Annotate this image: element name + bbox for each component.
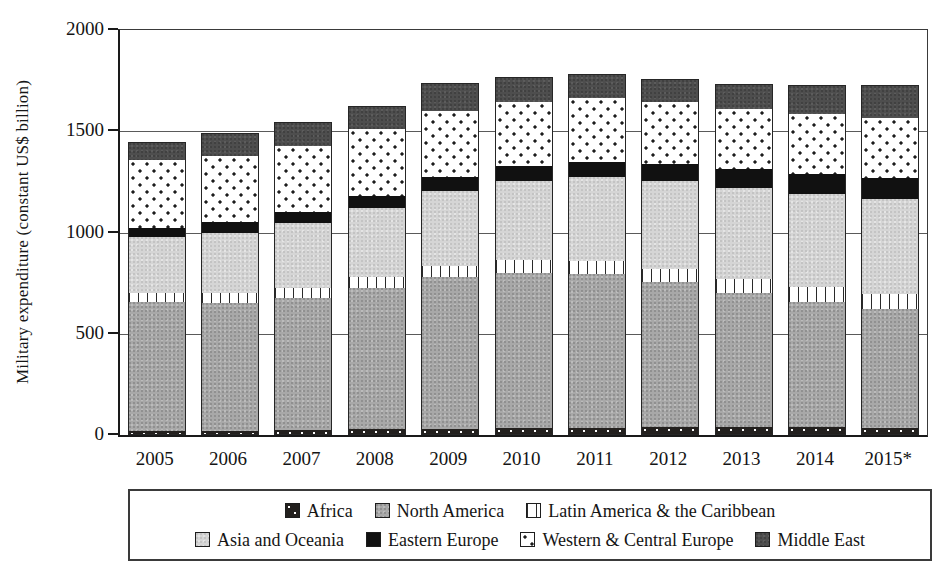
segment-latin-america-caribbean-2005 bbox=[128, 293, 186, 302]
x-tick-label-2011: 2011 bbox=[558, 448, 631, 470]
y-tick-label-2000: 2000 bbox=[66, 18, 104, 40]
segment-north-america-2014 bbox=[788, 302, 846, 427]
segment-north-america-2011 bbox=[568, 274, 626, 428]
segment-eastern-europe-2009 bbox=[421, 177, 479, 191]
segment-latin-america-caribbean-2007 bbox=[274, 288, 332, 298]
segment-western-central-europe-2012 bbox=[641, 102, 699, 164]
segment-middle-east-2012 bbox=[641, 79, 699, 102]
segment-middle-east-2009 bbox=[421, 83, 479, 112]
segment-latin-america-caribbean-2010 bbox=[495, 260, 553, 273]
segment-western-central-europe-2013 bbox=[715, 109, 773, 169]
segment-middle-east-2014 bbox=[788, 85, 846, 114]
segment-asia-oceania-2012 bbox=[641, 181, 699, 268]
segment-africa-2009 bbox=[421, 429, 479, 435]
legend-swatch-latin-america-caribbean-icon bbox=[526, 503, 541, 518]
segment-africa-2006 bbox=[201, 431, 259, 435]
segment-north-america-2013 bbox=[715, 293, 773, 427]
y-tick-mark-1500 bbox=[108, 129, 118, 131]
y-axis-tick-labels: 0500100015002000 bbox=[0, 0, 118, 463]
legend-label-middle-east: Middle East bbox=[777, 531, 865, 549]
segment-western-central-europe-2011 bbox=[568, 98, 626, 161]
segment-middle-east-2015 bbox=[861, 85, 919, 118]
segment-asia-oceania-2006 bbox=[201, 233, 259, 294]
segment-north-america-2006 bbox=[201, 303, 259, 431]
segment-latin-america-caribbean-2013 bbox=[715, 279, 773, 293]
segment-western-central-europe-2014 bbox=[788, 114, 846, 174]
legend-swatch-africa-icon bbox=[285, 503, 300, 518]
x-tick-label-2007: 2007 bbox=[265, 448, 338, 470]
y-tick-label-0: 0 bbox=[95, 423, 105, 445]
legend-swatch-asia-oceania-icon bbox=[195, 532, 210, 547]
segment-north-america-2015 bbox=[861, 309, 919, 428]
bar-2005 bbox=[128, 142, 186, 435]
legend-swatch-western-central-europe-icon bbox=[520, 532, 535, 547]
segment-middle-east-2006 bbox=[201, 133, 259, 155]
legend-label-asia-oceania: Asia and Oceania bbox=[217, 531, 344, 549]
segment-eastern-europe-2005 bbox=[128, 228, 186, 237]
segment-africa-2011 bbox=[568, 428, 626, 435]
bar-2008 bbox=[348, 106, 406, 435]
segment-africa-2008 bbox=[348, 429, 406, 435]
segment-africa-2010 bbox=[495, 428, 553, 435]
x-tick-label-2005: 2005 bbox=[118, 448, 191, 470]
legend-label-north-america: North America bbox=[397, 502, 504, 520]
legend-item-latin-america-caribbean[interactable]: Latin America & the Caribbean bbox=[526, 502, 775, 520]
segment-latin-america-caribbean-2008 bbox=[348, 277, 406, 288]
segment-north-america-2010 bbox=[495, 273, 553, 429]
x-tick-label-2009: 2009 bbox=[411, 448, 484, 470]
segment-africa-2015 bbox=[861, 428, 919, 435]
legend-item-eastern-europe[interactable]: Eastern Europe bbox=[366, 531, 498, 549]
segment-latin-america-caribbean-2011 bbox=[568, 261, 626, 274]
legend-item-western-central-europe[interactable]: Western & Central Europe bbox=[520, 531, 733, 549]
x-tick-label-2015: 2015* bbox=[852, 448, 925, 470]
x-tick-label-2014: 2014 bbox=[778, 448, 851, 470]
legend-label-western-central-europe: Western & Central Europe bbox=[542, 531, 733, 549]
segment-latin-america-caribbean-2006 bbox=[201, 293, 259, 303]
bar-2011 bbox=[568, 74, 626, 435]
x-tick-label-2010: 2010 bbox=[485, 448, 558, 470]
segment-eastern-europe-2007 bbox=[274, 212, 332, 223]
segment-eastern-europe-2013 bbox=[715, 169, 773, 188]
segment-africa-2012 bbox=[641, 427, 699, 435]
segment-asia-oceania-2008 bbox=[348, 208, 406, 277]
segment-middle-east-2005 bbox=[128, 142, 186, 160]
segment-western-central-europe-2008 bbox=[348, 129, 406, 196]
segment-middle-east-2011 bbox=[568, 74, 626, 98]
legend-row-2: Asia and OceaniaEastern EuropeWestern & … bbox=[130, 525, 930, 554]
segment-eastern-europe-2015 bbox=[861, 178, 919, 199]
legend-item-middle-east[interactable]: Middle East bbox=[755, 531, 865, 549]
bar-2006 bbox=[201, 133, 259, 435]
segment-western-central-europe-2006 bbox=[201, 156, 259, 223]
segment-latin-america-caribbean-2014 bbox=[788, 287, 846, 301]
segment-latin-america-caribbean-2015 bbox=[861, 294, 919, 309]
segment-asia-oceania-2014 bbox=[788, 194, 846, 288]
y-tick-label-500: 500 bbox=[76, 322, 105, 344]
segment-north-america-2012 bbox=[641, 282, 699, 427]
legend-label-eastern-europe: Eastern Europe bbox=[388, 531, 498, 549]
segment-north-america-2008 bbox=[348, 288, 406, 429]
y-tick-label-1500: 1500 bbox=[66, 119, 104, 141]
legend-item-asia-oceania[interactable]: Asia and Oceania bbox=[195, 531, 344, 549]
bar-2009 bbox=[421, 83, 479, 435]
segment-eastern-europe-2011 bbox=[568, 162, 626, 178]
segment-africa-2005 bbox=[128, 431, 186, 435]
bar-2007 bbox=[274, 122, 332, 435]
legend-item-africa[interactable]: Africa bbox=[285, 502, 353, 520]
segment-western-central-europe-2010 bbox=[495, 102, 553, 166]
segment-western-central-europe-2015 bbox=[861, 118, 919, 178]
footnote-text bbox=[8, 566, 408, 582]
x-tick-label-2013: 2013 bbox=[705, 448, 778, 470]
y-tick-mark-2000 bbox=[108, 28, 118, 30]
segment-north-america-2009 bbox=[421, 277, 479, 428]
legend-swatch-middle-east-icon bbox=[755, 532, 770, 547]
segment-latin-america-caribbean-2009 bbox=[421, 266, 479, 278]
legend-item-north-america[interactable]: North America bbox=[375, 502, 504, 520]
segment-middle-east-2008 bbox=[348, 106, 406, 129]
legend-label-latin-america-caribbean: Latin America & the Caribbean bbox=[548, 502, 775, 520]
segment-latin-america-caribbean-2012 bbox=[641, 269, 699, 282]
segment-asia-oceania-2015 bbox=[861, 199, 919, 294]
segment-eastern-europe-2014 bbox=[788, 174, 846, 194]
y-tick-mark-0 bbox=[108, 433, 118, 435]
y-tick-mark-500 bbox=[108, 332, 118, 334]
segment-asia-oceania-2009 bbox=[421, 191, 479, 266]
